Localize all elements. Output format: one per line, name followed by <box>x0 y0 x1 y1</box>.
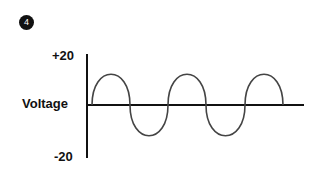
sine-wave-plot <box>0 0 316 175</box>
